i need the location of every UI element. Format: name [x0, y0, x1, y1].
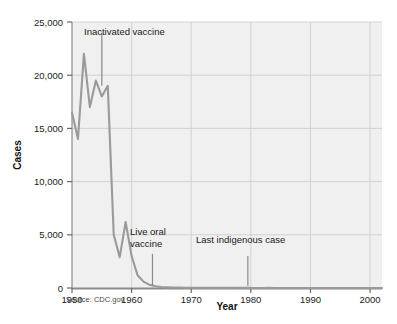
chart-svg: 05,00010,00015,00020,00025,000 195019601… — [0, 0, 397, 324]
y-tick-label: 0 — [58, 283, 63, 294]
annotation-live-oral-vaccine-label-line2: vaccine — [130, 238, 162, 249]
annotation-live-oral-vaccine-label-line1: Live oral — [130, 226, 166, 237]
source-caption: Source: CDC.gov — [66, 295, 125, 304]
annotation-last-indigenous-case-label: Last indigenous case — [196, 234, 285, 245]
y-tick-label: 5,000 — [39, 229, 63, 240]
y-tick-label: 20,000 — [34, 70, 63, 81]
x-tick-label: 2000 — [360, 294, 381, 305]
y-tick-label: 25,000 — [34, 17, 63, 28]
polio-cases-chart-figure: 05,00010,00015,00020,00025,000 195019601… — [0, 0, 397, 324]
x-tick-label: 1970 — [181, 294, 202, 305]
x-axis-title: Year — [216, 301, 237, 312]
x-tick-label: 1990 — [300, 294, 321, 305]
plot-area-background — [72, 22, 382, 288]
y-axis-title: Cases — [12, 140, 23, 170]
y-tick-label: 15,000 — [34, 123, 63, 134]
x-tick-label: 1980 — [240, 294, 261, 305]
annotation-inactivated-vaccine-label: Inactivated vaccine — [84, 26, 165, 37]
y-tick-label: 10,000 — [34, 176, 63, 187]
